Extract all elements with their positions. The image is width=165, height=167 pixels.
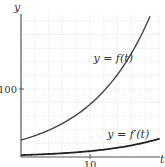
y-tick-label: 100 [0,84,17,95]
x-tick-label: 10 [84,159,97,167]
y-axis-label: y [13,1,21,14]
curve-f-prime [21,139,160,156]
chart: 10100 y t y = f(t)y = f′(t) [0,0,165,167]
label-f-prime: y = f′(t) [106,128,149,141]
x-axis-label: t [160,153,165,166]
curve-labels: y = f(t)y = f′(t) [92,52,149,141]
label-f: y = f(t) [92,52,133,65]
